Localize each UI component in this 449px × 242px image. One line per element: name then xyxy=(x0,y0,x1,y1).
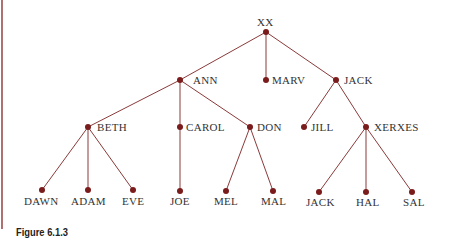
label-carol: CAROL xyxy=(186,121,225,133)
label-adam: ADAM xyxy=(71,195,106,207)
label-dawn: DAWN xyxy=(24,195,59,207)
label-hal: HAL xyxy=(356,196,380,208)
node-adam xyxy=(85,187,91,193)
node-jack xyxy=(333,77,339,83)
node-don xyxy=(247,124,253,130)
node-xerxes xyxy=(363,124,369,130)
node-dawn xyxy=(39,187,45,193)
node-beth xyxy=(85,124,91,130)
label-jack: JACK xyxy=(344,74,373,86)
node-mel xyxy=(223,188,229,194)
label-beth: BETH xyxy=(97,121,127,133)
label-joe: JOE xyxy=(170,195,190,207)
node-joe xyxy=(177,188,183,194)
label-mel: MEL xyxy=(214,195,238,207)
label-eve: EVE xyxy=(122,195,144,207)
node-ann xyxy=(177,77,183,83)
node-jack2 xyxy=(316,189,322,195)
figure-caption: Figure 6.1.3 xyxy=(16,226,68,238)
node-carol xyxy=(177,124,183,130)
label-ann: ANN xyxy=(193,74,218,86)
node-eve xyxy=(130,187,136,193)
node-sal xyxy=(409,189,415,195)
label-sal: SAL xyxy=(403,196,425,208)
node-xx xyxy=(263,29,269,35)
label-marv: MARV xyxy=(272,74,305,86)
label-xx: XX xyxy=(257,16,274,28)
node-hal xyxy=(363,189,369,195)
label-jack2: JACK xyxy=(306,196,335,208)
label-xerxes: XERXES xyxy=(374,121,419,133)
label-don: DON xyxy=(257,121,282,133)
node-mal xyxy=(270,188,276,194)
node-marv xyxy=(263,77,269,83)
label-mal: MAL xyxy=(261,195,286,207)
label-jill: JILL xyxy=(311,121,334,133)
node-jill xyxy=(301,124,307,130)
